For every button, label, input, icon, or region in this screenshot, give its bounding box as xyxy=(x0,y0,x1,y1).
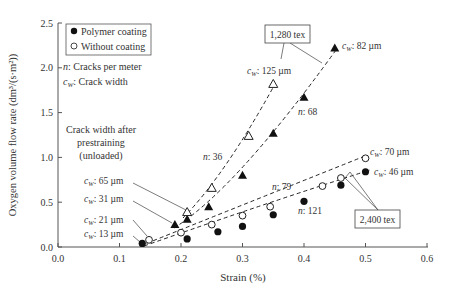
y-axis-ticks: 0.00.51.01.52.02.5 xyxy=(41,18,63,253)
filled-triangle-marker xyxy=(204,202,213,210)
x-tick-label: 0.6 xyxy=(421,253,434,264)
x-tick-label: 0.4 xyxy=(298,253,311,264)
open-triangle-marker xyxy=(244,131,253,139)
x-tick-label: 0.3 xyxy=(236,253,249,264)
filled-circle-marker xyxy=(337,182,344,189)
svg-text:(unloaded): (unloaded) xyxy=(79,150,122,162)
y-tick-label: 1.5 xyxy=(41,107,54,118)
x-tick-label: 0.5 xyxy=(359,253,372,264)
svg-text:cW: 70 µm: cW: 70 µm xyxy=(370,147,410,158)
svg-text:n: 79: n: 79 xyxy=(272,182,292,192)
fit-curves xyxy=(140,50,370,246)
x-tick-label: 0.0 xyxy=(52,253,65,264)
filled-circle-marker xyxy=(362,168,369,175)
x-axis-ticks: 0.00.10.20.30.40.50.6 xyxy=(52,243,434,264)
svg-text:n: 121: n: 121 xyxy=(298,206,322,216)
legend-label-without: Without coating xyxy=(81,41,145,52)
filled-circle-marker xyxy=(139,240,146,247)
svg-text:cW: 13 µm: cW: 13 µm xyxy=(84,229,124,240)
svg-text:cW: 31 µm: cW: 31 µm xyxy=(84,194,124,205)
y-tick-label: 2.0 xyxy=(41,62,54,73)
svg-text:cW: 82 µm: cW: 82 µm xyxy=(342,41,382,52)
svg-text:cW: Crack width: cW: Crack width xyxy=(63,76,128,89)
filled-triangle-marker xyxy=(170,220,179,228)
open-circle-marker xyxy=(208,221,215,228)
open-circle-marker xyxy=(362,155,369,162)
open-circle-marker xyxy=(267,203,274,210)
definitions: n: Cracks per meter cW: Crack width Crac… xyxy=(63,61,142,162)
legend-label-polymer: Polymer coating xyxy=(81,26,147,37)
y-tick-label: 0.5 xyxy=(41,197,54,208)
svg-text:prestraining: prestraining xyxy=(77,137,125,148)
svg-text:cW: 46 µm: cW: 46 µm xyxy=(374,167,414,178)
filled-circle-marker xyxy=(184,235,191,242)
x-tick-label: 0.2 xyxy=(175,253,188,264)
open-circle-marker xyxy=(178,229,185,236)
chart-container: 0.00.10.20.30.40.50.6 0.00.51.01.52.02.5… xyxy=(0,0,449,297)
open-circle-marker xyxy=(146,236,153,243)
open-circle-marker xyxy=(338,175,345,182)
legend: Polymer coating Without coating xyxy=(66,24,151,55)
filled-circle-marker xyxy=(270,211,277,218)
y-tick-label: 0.0 xyxy=(41,242,54,253)
svg-text:cW: 125 µm: cW: 125 µm xyxy=(247,66,292,77)
filled-circle-marker xyxy=(239,223,246,230)
filled-triangle-marker xyxy=(269,129,278,137)
svg-text:n: 68: n: 68 xyxy=(298,107,318,117)
svg-text:cW: 21 µm: cW: 21 µm xyxy=(84,215,124,226)
y-tick-label: 1.0 xyxy=(41,152,54,163)
x-tick-label: 0.1 xyxy=(113,253,126,264)
svg-text:2,400 tex: 2,400 tex xyxy=(360,215,396,225)
filled-triangle-marker xyxy=(330,44,339,52)
filled-circle-marker xyxy=(300,198,307,205)
open-circle-icon xyxy=(71,43,77,49)
y-tick-label: 2.5 xyxy=(41,18,54,29)
svg-text:n: Cracks per meter: n: Cracks per meter xyxy=(63,61,142,72)
svg-text:1,280 tex: 1,280 tex xyxy=(270,30,306,40)
open-triangle-marker xyxy=(269,79,278,87)
tex-label-1280: 1,280 tex xyxy=(265,25,310,43)
filled-circle-marker xyxy=(214,228,221,235)
open-circle-marker xyxy=(319,183,326,190)
y-axis-label: Oxygen volume flow rate (dm³/(s·m²)) xyxy=(7,53,19,216)
svg-text:Crack width after: Crack width after xyxy=(66,124,137,135)
filled-triangle-marker xyxy=(238,171,247,179)
svg-text:cW: 65 µm: cW: 65 µm xyxy=(84,176,124,187)
x-axis-label: Strain (%) xyxy=(220,271,266,284)
filled-circle-icon xyxy=(71,28,77,34)
tex-label-2400: 2,400 tex xyxy=(355,210,400,228)
open-circle-marker xyxy=(239,212,246,219)
svg-text:n: 36: n: 36 xyxy=(203,152,223,162)
open-triangle-marker xyxy=(207,183,216,191)
